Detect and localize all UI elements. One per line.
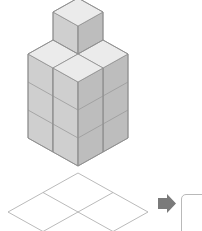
puzzle-root [0, 0, 202, 231]
front-column-right-face [78, 68, 103, 166]
right-column-right-face [103, 54, 128, 152]
cube-stack-figure[interactable] [28, 0, 128, 166]
right-arrow-icon [158, 194, 176, 213]
base-grid-outline [8, 173, 148, 231]
front-column-left-face [53, 68, 78, 166]
base-plan-grid[interactable] [8, 173, 148, 231]
right-arrow-glyph [158, 194, 176, 213]
answer-drop-area[interactable] [181, 194, 202, 231]
isometric-scene [0, 0, 202, 231]
left-column-left-face [28, 54, 53, 152]
